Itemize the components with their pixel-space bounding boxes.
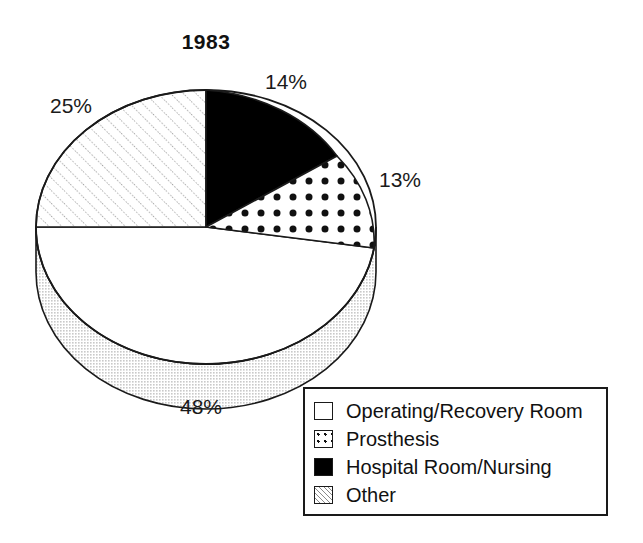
pie-chart-figure: 1983 [0, 0, 643, 543]
legend-label-operating-recovery-room: Operating/Recovery Room [346, 400, 583, 422]
legend-item-operating-recovery-room: Operating/Recovery Room [314, 397, 606, 425]
pie-label-prosthesis: 13% [379, 169, 421, 191]
legend-label-prosthesis: Prosthesis [346, 428, 439, 450]
pie-label-other: 25% [50, 95, 92, 117]
legend-item-other: Other [314, 481, 606, 509]
legend-swatch-hospital-room-nursing-icon [314, 458, 333, 476]
legend: Operating/Recovery Room Prosthesis Hospi… [303, 387, 608, 516]
legend-swatch-operating-recovery-room-icon [314, 402, 333, 420]
legend-swatch-prosthesis-icon [314, 430, 333, 448]
legend-swatch-other-icon [314, 486, 333, 504]
legend-item-hospital-room-nursing: Hospital Room/Nursing [314, 453, 606, 481]
pie-label-hospital-room-nursing: 14% [265, 71, 307, 93]
legend-label-other: Other [346, 484, 396, 506]
pie-label-operating-recovery-room: 48% [180, 396, 222, 418]
legend-label-hospital-room-nursing: Hospital Room/Nursing [346, 456, 552, 478]
legend-item-prosthesis: Prosthesis [314, 425, 606, 453]
